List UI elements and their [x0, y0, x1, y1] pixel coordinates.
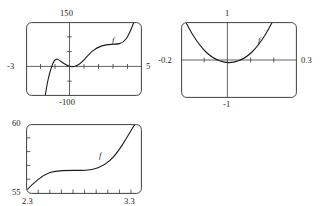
graph-c-ymin-label: 55 [12, 188, 21, 197]
graph-a-svg [26, 22, 142, 96]
graph-b-ymax-label: 1 [225, 9, 229, 18]
graph-c-panel: f [26, 124, 142, 194]
graph-b-svg [181, 22, 297, 98]
graph-b-curve [180, 10, 278, 63]
graph-c-curve [27, 123, 137, 190]
graph-b-xmin-label: -0.2 [158, 56, 172, 65]
graph-c-svg [26, 124, 142, 194]
graph-c-xmax-label: 3.3 [124, 197, 135, 206]
graph-a-xmin-label: -3 [7, 62, 14, 71]
graph-c-xmin-label: 2.3 [22, 197, 33, 206]
graph-a-curve [41, 16, 137, 126]
graph-b-xmax-label: 0.3 [301, 56, 312, 65]
graph-b-curve-label: f [258, 35, 260, 45]
graph-b-ymin-label: -1 [223, 100, 230, 109]
graph-c-x-ticks [38, 190, 131, 194]
figure-three-graphs: f 150 -100 -3 5 f 1 -1 -0.2 0.3 [0, 0, 322, 206]
graph-c-frame [27, 125, 142, 194]
graph-a-curve-label: f [112, 35, 114, 45]
graph-c-y-ticks [27, 138, 31, 179]
graph-a-xmax-label: 5 [146, 62, 150, 71]
graph-b-panel: f [181, 22, 297, 98]
graph-c-curve-label: f [99, 150, 101, 160]
graph-a-ymax-label: 150 [60, 9, 73, 18]
graph-c-ymax-label: 60 [12, 119, 21, 128]
graph-a-ymin-label: -100 [59, 98, 75, 107]
graph-a-panel: f [26, 22, 142, 96]
